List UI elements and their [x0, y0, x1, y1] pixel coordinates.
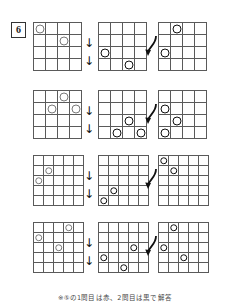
- grid-cell[interactable]: [119, 176, 129, 186]
- grid-cell[interactable]: [34, 23, 46, 35]
- grid-cell[interactable]: [119, 196, 129, 206]
- grid-cell[interactable]: [44, 166, 54, 176]
- grid-cell[interactable]: [44, 176, 54, 186]
- grid-cell[interactable]: [183, 35, 195, 47]
- grid-cell[interactable]: [99, 176, 109, 186]
- grid-cell[interactable]: [169, 263, 179, 273]
- grid-cell[interactable]: [74, 196, 84, 206]
- grid-panel[interactable]: [33, 155, 84, 206]
- grid-cell[interactable]: [34, 176, 44, 186]
- grid-cell[interactable]: [34, 253, 44, 263]
- grid-cell[interactable]: [129, 233, 139, 243]
- grid-cell[interactable]: [99, 103, 111, 115]
- grid-cell[interactable]: [123, 103, 135, 115]
- grid-cell[interactable]: [171, 47, 183, 59]
- grid-cell[interactable]: [169, 223, 179, 233]
- grid-cell[interactable]: [199, 233, 209, 243]
- grid-cell[interactable]: [189, 243, 199, 253]
- grid-panel[interactable]: [98, 90, 147, 139]
- grid-cell[interactable]: [70, 115, 82, 127]
- grid-cell[interactable]: [123, 47, 135, 59]
- grid-cell[interactable]: [109, 263, 119, 273]
- grid-cell[interactable]: [74, 186, 84, 196]
- grid-cell[interactable]: [54, 196, 64, 206]
- grid-cell[interactable]: [179, 233, 189, 243]
- grid-cell[interactable]: [169, 233, 179, 243]
- grid-cell[interactable]: [189, 223, 199, 233]
- grid-cell[interactable]: [119, 243, 129, 253]
- grid-cell[interactable]: [99, 243, 109, 253]
- grid-cell[interactable]: [99, 233, 109, 243]
- grid-cell[interactable]: [109, 166, 119, 176]
- answer-grid[interactable]: [158, 22, 207, 71]
- grid-cell[interactable]: [44, 186, 54, 196]
- grid-cell[interactable]: [46, 23, 58, 35]
- grid-cell[interactable]: [54, 186, 64, 196]
- grid-cell[interactable]: [135, 91, 147, 103]
- grid-cell[interactable]: [44, 263, 54, 273]
- grid-cell[interactable]: [171, 23, 183, 35]
- grid-cell[interactable]: [119, 223, 129, 233]
- grid-cell[interactable]: [119, 263, 129, 273]
- grid-cell[interactable]: [74, 233, 84, 243]
- grid-cell[interactable]: [74, 223, 84, 233]
- grid-cell[interactable]: [135, 127, 147, 139]
- grid-cell[interactable]: [34, 243, 44, 253]
- grid-cell[interactable]: [159, 243, 169, 253]
- grid-cell[interactable]: [70, 23, 82, 35]
- grid-cell[interactable]: [34, 115, 46, 127]
- grid-cell[interactable]: [129, 253, 139, 263]
- grid-cell[interactable]: [99, 156, 109, 166]
- grid-cell[interactable]: [34, 59, 46, 71]
- grid-cell[interactable]: [99, 223, 109, 233]
- grid-cell[interactable]: [74, 166, 84, 176]
- grid-cell[interactable]: [159, 47, 171, 59]
- grid-cell[interactable]: [54, 176, 64, 186]
- grid-cell[interactable]: [64, 176, 74, 186]
- grid-cell[interactable]: [99, 253, 109, 263]
- answer-grid[interactable]: [158, 90, 207, 139]
- grid-cell[interactable]: [111, 35, 123, 47]
- grid-cell[interactable]: [129, 263, 139, 273]
- grid-cell[interactable]: [179, 263, 189, 273]
- grid-cell[interactable]: [34, 127, 46, 139]
- grid-panel[interactable]: [33, 90, 82, 139]
- grid-cell[interactable]: [58, 23, 70, 35]
- grid-cell[interactable]: [159, 176, 169, 186]
- grid-cell[interactable]: [189, 166, 199, 176]
- grid-cell[interactable]: [169, 156, 179, 166]
- grid-cell[interactable]: [111, 127, 123, 139]
- grid-cell[interactable]: [99, 166, 109, 176]
- grid-cell[interactable]: [159, 186, 169, 196]
- grid-cell[interactable]: [123, 127, 135, 139]
- grid-cell[interactable]: [183, 91, 195, 103]
- grid-cell[interactable]: [159, 59, 171, 71]
- grid-cell[interactable]: [119, 233, 129, 243]
- grid-cell[interactable]: [129, 156, 139, 166]
- grid-cell[interactable]: [34, 103, 46, 115]
- grid-cell[interactable]: [34, 196, 44, 206]
- grid-cell[interactable]: [99, 91, 111, 103]
- grid-cell[interactable]: [99, 196, 109, 206]
- grid-panel[interactable]: [98, 155, 149, 206]
- grid-cell[interactable]: [74, 176, 84, 186]
- grid-cell[interactable]: [34, 166, 44, 176]
- grid-cell[interactable]: [199, 156, 209, 166]
- grid-cell[interactable]: [199, 196, 209, 206]
- grid-cell[interactable]: [195, 23, 207, 35]
- answer-grid[interactable]: [33, 222, 84, 273]
- grid-cell[interactable]: [189, 233, 199, 243]
- grid-cell[interactable]: [46, 47, 58, 59]
- grid-cell[interactable]: [195, 103, 207, 115]
- grid-cell[interactable]: [171, 115, 183, 127]
- grid-cell[interactable]: [46, 103, 58, 115]
- grid-cell[interactable]: [179, 243, 189, 253]
- grid-cell[interactable]: [46, 127, 58, 139]
- grid-cell[interactable]: [58, 103, 70, 115]
- grid-cell[interactable]: [46, 115, 58, 127]
- grid-cell[interactable]: [99, 59, 111, 71]
- answer-grid[interactable]: [98, 90, 147, 139]
- grid-cell[interactable]: [64, 233, 74, 243]
- grid-cell[interactable]: [195, 127, 207, 139]
- grid-panel[interactable]: [33, 22, 82, 71]
